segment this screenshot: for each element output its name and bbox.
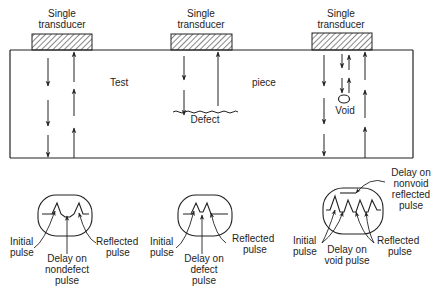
- pointer-arrow-icon: [366, 212, 374, 243]
- pointer-arrow-icon: [322, 210, 335, 243]
- scope-3-reflected-line1: Reflected: [377, 235, 419, 246]
- scope-1-initial-line2: pulse: [10, 247, 34, 258]
- scope-1-reflected-line2: pulse: [106, 247, 130, 258]
- scope-1-reflected-line1: Reflected: [96, 236, 138, 247]
- scope-3-initial-line2: pulse: [293, 246, 317, 257]
- test-piece-label-piece: piece: [252, 77, 276, 88]
- scope-3-nonvoid-line3: reflected: [392, 189, 430, 200]
- pointer-arrow-icon: [211, 213, 226, 243]
- transducer-1-label-line2: transducer: [38, 19, 86, 30]
- scope-3-nonvoid-line4: pulse: [399, 200, 423, 211]
- transducer-1: [32, 34, 92, 50]
- scope-2-delay-line3: pulse: [192, 275, 216, 286]
- oscilloscope-defect: [178, 195, 232, 236]
- scope-3-initial-line1: Initial: [293, 235, 316, 246]
- scope-3-nonvoid-line2: nonvoid: [393, 178, 428, 189]
- transducer-1-label-line1: Single: [48, 8, 76, 19]
- pointer-arrow-icon: [34, 211, 55, 248]
- test-piece: [10, 50, 413, 158]
- scope-1-initial-line1: Initial: [10, 236, 33, 247]
- scope-1-delay-line3: pulse: [55, 275, 79, 286]
- scope-2-reflected-line1: Reflected: [232, 233, 274, 244]
- transducer-2-label-line2: transducer: [177, 19, 225, 30]
- pointer-arrow-icon: [356, 212, 374, 243]
- scope-2-reflected-line2: pulse: [243, 244, 267, 255]
- pointer-arrow-icon: [356, 180, 385, 193]
- oscilloscope-void: [323, 188, 383, 234]
- scope-3-nonvoid-line1: Delay on: [391, 167, 430, 178]
- transducer-3-label-line1: Single: [327, 8, 355, 19]
- transducer-2: [171, 34, 232, 50]
- test-piece-label-test: Test: [110, 77, 129, 88]
- scope-2-initial-line1: Initial: [150, 236, 173, 247]
- transducer-3: [312, 33, 372, 50]
- scope-2-delay-line2: defect: [190, 264, 217, 275]
- pointer-arrow-icon: [79, 213, 96, 243]
- oscilloscope-nondefect: [38, 195, 92, 236]
- scope-1-delay-line1: Delay on: [47, 253, 86, 264]
- defect-crack: [173, 111, 238, 113]
- scope-1-delay-line2: nondefect: [45, 264, 89, 275]
- void-ellipse: [339, 95, 350, 103]
- pointer-arrow-icon: [176, 211, 194, 248]
- transducer-2-label-line1: Single: [187, 8, 215, 19]
- scope-3-reflected-line2: pulse: [388, 246, 412, 257]
- defect-label: Defect: [191, 114, 220, 125]
- scope-2-initial-line2: pulse: [150, 247, 174, 258]
- wave-arrows-nondefect: [48, 52, 74, 158]
- scope-3-delay-line1: Delay on: [327, 244, 366, 255]
- void-label: Void: [335, 105, 354, 116]
- ultrasonic-testing-diagram: Test piece Single transducer Single tran…: [0, 0, 436, 287]
- scope-3-delay-line2: void pulse: [324, 255, 369, 266]
- wave-arrows-defect: [184, 52, 218, 115]
- scope-2-delay-line1: Delay on: [184, 253, 223, 264]
- transducer-3-label-line2: transducer: [317, 19, 365, 30]
- scope-2-callouts: [176, 211, 226, 254]
